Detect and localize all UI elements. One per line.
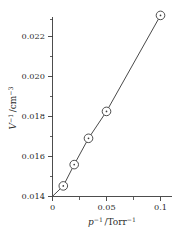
x-axis-tick-labels: 0 0.05 0.1 (50, 202, 167, 212)
y-axis-tick-labels: 0.014 0.016 0.018 0.020 0.022 (22, 31, 45, 201)
data-point (156, 11, 165, 20)
x-tick-label: 0.05 (97, 202, 115, 212)
marker-center-dot-icon (73, 164, 75, 166)
y-axis-title-unit-exponent: −3 (7, 87, 14, 96)
x-axis-title-unit: /Torr (104, 217, 127, 227)
y-axis-title-unit: /cm (8, 95, 18, 112)
chart-plot-svg: 0.014 0.016 0.018 0.020 0.022 0 0.05 0.1 (0, 0, 181, 234)
x-tick-label: 0.1 (154, 202, 167, 212)
marker-center-dot-icon (88, 137, 90, 139)
marker-center-dot-icon (106, 111, 108, 113)
data-point (84, 134, 93, 143)
y-tick-label: 0.014 (22, 191, 45, 201)
marker-center-dot-icon (160, 15, 162, 17)
x-axis-title: p−1/Torr−1 (88, 216, 136, 228)
y-axis-title-variable-exponent: −1 (7, 114, 14, 123)
x-axis-title-group: p−1/Torr−1 (88, 216, 136, 228)
data-series-line-group (53, 15, 161, 196)
x-axis-title-unit-exponent: −1 (127, 216, 136, 223)
data-series-line (53, 15, 161, 196)
data-point (102, 107, 111, 116)
y-tick-label: 0.022 (22, 31, 45, 41)
x-tick-label: 0 (50, 202, 55, 212)
x-axis-title-variable-exponent: −1 (94, 216, 103, 223)
y-axis-title: V−1/cm−3 (7, 87, 19, 130)
data-point (59, 182, 68, 191)
y-tick-label: 0.020 (22, 71, 45, 81)
data-point (70, 160, 79, 169)
chart-figure: 0.014 0.016 0.018 0.020 0.022 0 0.05 0.1 (0, 0, 181, 234)
y-axis-ticks (48, 20, 53, 197)
axes-group (53, 17, 173, 197)
marker-center-dot-icon (62, 185, 64, 187)
x-axis-ticks (53, 197, 161, 202)
data-point-markers (59, 11, 165, 190)
y-tick-label: 0.016 (22, 151, 45, 161)
y-tick-label: 0.018 (22, 111, 45, 121)
y-axis-title-group: V−1/cm−3 (7, 87, 19, 130)
